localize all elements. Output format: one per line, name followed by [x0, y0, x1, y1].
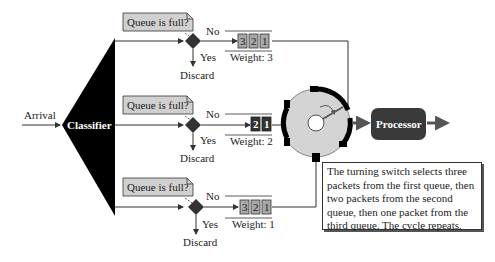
decision-diamond — [185, 117, 201, 133]
svg-text:3: 3 — [242, 201, 248, 213]
svg-text:Yes: Yes — [200, 51, 216, 63]
turning-switch — [282, 86, 350, 162]
svg-text:2: 2 — [253, 118, 259, 130]
classifier: Classifier — [62, 38, 115, 216]
svg-text:Discard: Discard — [183, 236, 218, 248]
arrival-arrow: Arrival — [22, 109, 60, 125]
svg-text:1: 1 — [262, 35, 268, 47]
queue-3: Queue is full? No Yes Discard 3 2 1 Weig… — [115, 158, 316, 248]
queue-full-callout: Queue is full? — [123, 13, 193, 38]
arrival-label: Arrival — [24, 109, 56, 121]
svg-text:Yes: Yes — [200, 134, 216, 146]
svg-text:1: 1 — [264, 201, 270, 213]
processor-label: Processor — [376, 118, 422, 130]
svg-text:No: No — [206, 190, 220, 202]
weight-label: Weight: 1 — [232, 218, 275, 230]
svg-text:Queue is full?: Queue is full? — [127, 16, 189, 28]
weight-label: Weight: 2 — [230, 135, 273, 147]
explanation-note: The turning switch selects three packets… — [322, 162, 482, 230]
processor: Processor — [371, 108, 426, 140]
packet-queue: 3 2 1 — [238, 34, 269, 48]
svg-text:2: 2 — [253, 201, 259, 213]
svg-text:Yes: Yes — [202, 218, 218, 230]
decision-diamond — [188, 199, 204, 215]
queue-full-callout: Queue is full? — [123, 96, 193, 121]
queue-full-callout: Queue is full? — [123, 178, 193, 203]
svg-text:2: 2 — [251, 35, 257, 47]
svg-text:3: 3 — [240, 35, 246, 47]
weight-label: Weight: 3 — [230, 51, 273, 63]
svg-text:Discard: Discard — [180, 152, 215, 164]
decision-diamond — [185, 33, 201, 49]
svg-text:No: No — [206, 25, 220, 37]
svg-text:No: No — [206, 108, 220, 120]
packet-queue: 3 2 1 — [240, 200, 271, 214]
svg-text:1: 1 — [264, 118, 270, 130]
classifier-label: Classifier — [67, 119, 112, 131]
packet-queue: 2 1 — [251, 117, 271, 131]
svg-text:Queue is full?: Queue is full? — [127, 181, 189, 193]
svg-text:Queue is full?: Queue is full? — [127, 99, 189, 111]
queue-2: Queue is full? No Yes Discard 2 1 Weight… — [115, 96, 288, 164]
svg-text:Discard: Discard — [180, 69, 215, 81]
